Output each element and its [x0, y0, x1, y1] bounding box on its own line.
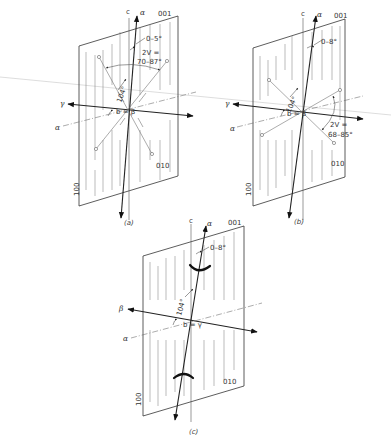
alpha-dash-label: α — [230, 124, 235, 133]
face-100-label: 100 — [135, 393, 143, 406]
mineral-optics-figure: c α 001 0–5° 2V = 70–87° 104° γ α b = β … — [0, 0, 391, 447]
beta-label: β — [118, 304, 124, 313]
alpha-dash-label: α — [123, 334, 128, 343]
face-100-label: 100 — [245, 183, 253, 196]
two-v-label: 2V = — [330, 121, 347, 129]
face-001-label: 001 — [228, 219, 241, 227]
two-v-label: 2V = — [142, 49, 159, 57]
cleavage-hatching — [150, 232, 234, 406]
extinction-angle: 0–8° — [210, 244, 226, 252]
two-v-range: 70–87° — [137, 58, 162, 66]
rotation-twist-bottom — [174, 374, 193, 378]
center-label: b = β — [287, 110, 306, 118]
optic-axis-2 — [96, 61, 167, 149]
c-label: c — [126, 8, 130, 16]
extinction-arc — [307, 46, 314, 48]
c-label: c — [301, 10, 305, 18]
alpha-dash-label: α — [55, 123, 60, 132]
scan-artifact-line — [0, 77, 391, 115]
extinction-angle: 0–5° — [146, 35, 162, 43]
center-label: b = β — [116, 108, 135, 116]
face-001-label: 001 — [158, 10, 171, 18]
face-010-label: 010 — [331, 160, 344, 168]
extinction-angle: 0–8° — [321, 38, 337, 46]
leader — [136, 38, 145, 44]
caption-b: (b) — [294, 218, 304, 226]
panel-c: c α 001 0–8° 104° β α b = γ 010 100 (c) — [118, 217, 262, 436]
gamma-label: γ — [60, 99, 65, 108]
two-v-range: 68–85° — [328, 131, 353, 139]
caption-a: (a) — [124, 219, 134, 227]
c-label: c — [189, 217, 193, 225]
face-010-label: 010 — [223, 378, 236, 386]
optic-axis-1 — [99, 57, 152, 154]
center-label: b = γ — [183, 321, 202, 329]
panel-a: c α 001 0–5° 2V = 70–87° 104° γ α b = β … — [55, 8, 196, 227]
face-100-label: 100 — [73, 183, 81, 196]
alpha-label: α — [140, 8, 145, 17]
caption-c: (c) — [189, 428, 199, 436]
alpha-label: α — [317, 10, 322, 19]
panel-b: c α 001 0–8° 104° γ α b = β 2V = 68–85° … — [225, 10, 363, 226]
angle-104: 104° — [115, 85, 128, 104]
angle-104: 104° — [175, 298, 187, 316]
alpha-label: α — [207, 219, 212, 228]
face-001-label: 001 — [334, 12, 347, 20]
face-010-label: 010 — [156, 162, 169, 170]
gamma-label: γ — [225, 99, 230, 108]
